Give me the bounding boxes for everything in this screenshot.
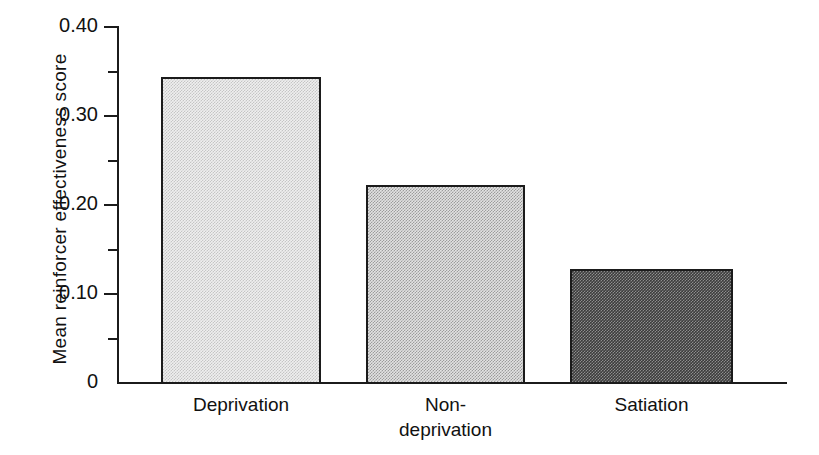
y-axis-line xyxy=(117,26,119,384)
x-category-label-non-deprivation-line1: Non- xyxy=(366,392,525,417)
y-tick-major-030 xyxy=(104,115,117,117)
y-tick-label-030: 0.30 xyxy=(20,103,98,126)
y-tick-label-040: 0.40 xyxy=(20,14,98,37)
x-category-label-deprivation-line1: Deprivation xyxy=(161,392,321,417)
x-category-label-satiation-line1: Satiation xyxy=(570,392,733,417)
y-tick-label-000: 0 xyxy=(20,370,98,393)
x-category-label-satiation: Satiation xyxy=(570,392,733,417)
bar-deprivation xyxy=(161,77,321,384)
x-category-label-non-deprivation: Non- deprivation xyxy=(366,392,525,442)
y-tick-major-020 xyxy=(104,204,117,206)
y-tick-label-010: 0.10 xyxy=(20,281,98,304)
y-tick-minor-015 xyxy=(108,249,117,251)
y-tick-minor-035 xyxy=(108,71,117,73)
bar-chart: Mean reinforcer effectiveness score 0.40… xyxy=(0,0,819,455)
y-tick-minor-025 xyxy=(108,160,117,162)
y-tick-major-010 xyxy=(104,293,117,295)
x-category-label-deprivation: Deprivation xyxy=(161,392,321,417)
bar-satiation xyxy=(570,269,733,384)
x-category-label-non-deprivation-line2: deprivation xyxy=(366,417,525,442)
y-tick-label-020: 0.20 xyxy=(20,192,98,215)
y-tick-minor-005 xyxy=(108,338,117,340)
y-tick-major-040 xyxy=(104,26,117,28)
bar-non-deprivation xyxy=(366,185,525,384)
